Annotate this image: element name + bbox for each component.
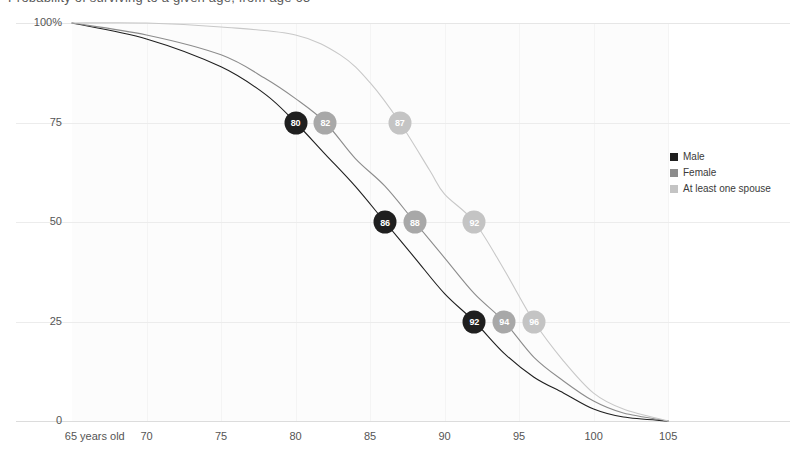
legend-swatch-icon [670, 153, 678, 161]
chart-legend: MaleFemaleAt least one spouse [670, 150, 771, 198]
data-point-marker[interactable]: 92 [463, 310, 486, 333]
data-point-marker[interactable]: 94 [493, 310, 516, 333]
legend-item[interactable]: Female [670, 166, 771, 179]
series-line [72, 23, 668, 421]
legend-item[interactable]: Male [670, 150, 771, 163]
legend-swatch-icon [670, 169, 678, 177]
legend-swatch-icon [670, 185, 678, 193]
data-point-marker[interactable]: 87 [388, 111, 411, 134]
data-point-marker[interactable]: 88 [403, 211, 426, 234]
chart-canvas: Probability of surviving to a given age,… [0, 0, 790, 459]
data-point-marker[interactable]: 86 [373, 211, 396, 234]
series-curves [0, 0, 790, 459]
legend-label: Male [683, 150, 705, 163]
data-point-marker[interactable]: 96 [522, 310, 545, 333]
legend-label: Female [683, 166, 716, 179]
legend-label: At least one spouse [683, 182, 771, 195]
data-point-marker[interactable]: 82 [314, 111, 337, 134]
data-point-marker[interactable]: 80 [284, 111, 307, 134]
data-point-marker[interactable]: 92 [463, 211, 486, 234]
legend-item[interactable]: At least one spouse [670, 182, 771, 195]
